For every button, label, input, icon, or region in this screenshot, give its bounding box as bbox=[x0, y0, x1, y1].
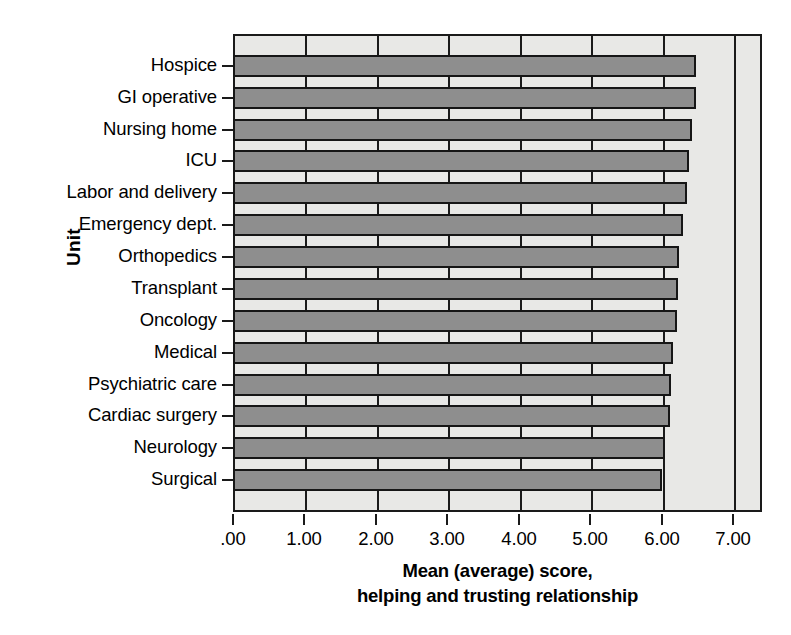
y-tick-mark bbox=[222, 384, 233, 386]
y-tick-mark bbox=[222, 160, 233, 162]
y-tick-mark bbox=[222, 447, 233, 449]
y-tick-mark bbox=[222, 224, 233, 226]
y-tick-label-transplant: Transplant bbox=[131, 279, 217, 297]
y-tick-label-surgical: Surgical bbox=[151, 470, 217, 488]
x-tick-label-3.00: 3.00 bbox=[407, 528, 487, 550]
bar-cardiac-surgery bbox=[233, 405, 670, 427]
x-axis-title-line-2: helping and trusting relationship bbox=[233, 583, 762, 608]
y-tick-mark bbox=[222, 97, 233, 99]
bar-gi-operative bbox=[233, 87, 696, 109]
x-tick-mark bbox=[732, 514, 734, 525]
x-tick-label-2.00: 2.00 bbox=[336, 528, 416, 550]
bar-labor-and-delivery bbox=[233, 182, 687, 204]
x-tick-label-1.00: 1.00 bbox=[264, 528, 344, 550]
x-tick-mark bbox=[446, 514, 448, 525]
x-axis-title: Mean (average) score, helping and trusti… bbox=[233, 558, 762, 608]
x-tick-mark bbox=[232, 514, 234, 525]
y-axis-title: Unit bbox=[63, 187, 85, 307]
y-tick-mark bbox=[222, 256, 233, 258]
bar-hospice bbox=[233, 55, 696, 77]
bar-psychiatric-care bbox=[233, 374, 671, 396]
y-tick-mark bbox=[222, 288, 233, 290]
y-tick-label-neurology: Neurology bbox=[134, 438, 217, 456]
y-tick-mark bbox=[222, 415, 233, 417]
x-tick-label-7.00: 7.00 bbox=[693, 528, 773, 550]
y-tick-label-emergency-dept: Emergency dept. bbox=[79, 215, 217, 233]
y-tick-label-cardiac-surgery: Cardiac surgery bbox=[88, 406, 217, 424]
y-tick-label-nursing-home: Nursing home bbox=[103, 120, 217, 138]
x-tick-label-4.00: 4.00 bbox=[479, 528, 559, 550]
x-tick-mark bbox=[589, 514, 591, 525]
x-tick-label-5.00: 5.00 bbox=[550, 528, 630, 550]
y-tick-label-psychiatric-care: Psychiatric care bbox=[88, 375, 217, 393]
bar-emergency-dept bbox=[233, 214, 683, 236]
bar-orthopedics bbox=[233, 246, 679, 268]
y-tick-mark bbox=[222, 65, 233, 67]
y-tick-label-labor-and-delivery: Labor and delivery bbox=[67, 183, 217, 201]
y-tick-label-oncology: Oncology bbox=[140, 311, 217, 329]
x-tick-mark bbox=[518, 514, 520, 525]
bar-medical bbox=[233, 342, 673, 364]
x-tick-label-6.00: 6.00 bbox=[622, 528, 702, 550]
x-tick-mark bbox=[303, 514, 305, 525]
y-tick-label-icu: ICU bbox=[185, 151, 217, 169]
bars-group bbox=[233, 34, 762, 512]
bar-surgical bbox=[233, 469, 662, 491]
y-tick-mark bbox=[222, 129, 233, 131]
y-tick-mark bbox=[222, 192, 233, 194]
bar-chart-figure: Unit HospiceGI operativeNursing homeICUL… bbox=[0, 0, 791, 635]
x-tick-mark bbox=[661, 514, 663, 525]
y-tick-label-hospice: Hospice bbox=[151, 56, 217, 74]
y-tick-mark bbox=[222, 352, 233, 354]
bar-icu bbox=[233, 150, 689, 172]
x-axis-title-line-1: Mean (average) score, bbox=[402, 560, 592, 581]
bar-oncology bbox=[233, 310, 677, 332]
y-tick-mark bbox=[222, 320, 233, 322]
bar-transplant bbox=[233, 278, 678, 300]
y-tick-mark bbox=[222, 479, 233, 481]
x-tick-mark bbox=[375, 514, 377, 525]
bar-neurology bbox=[233, 437, 665, 459]
y-tick-label-medical: Medical bbox=[154, 343, 217, 361]
y-tick-label-orthopedics: Orthopedics bbox=[118, 247, 217, 265]
x-tick-label-.00: .00 bbox=[193, 528, 273, 550]
y-tick-label-gi-operative: GI operative bbox=[117, 88, 217, 106]
bar-nursing-home bbox=[233, 119, 692, 141]
